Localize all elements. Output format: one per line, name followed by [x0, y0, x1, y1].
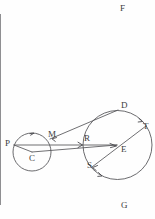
segment-c-e	[32, 145, 117, 152]
point-label-d: D	[121, 101, 128, 110]
point-label-r: R	[84, 134, 90, 143]
point-label-f: F	[120, 4, 125, 13]
point-label-p: P	[5, 139, 10, 148]
point-label-m: M	[48, 130, 56, 139]
point-label-s: S	[87, 161, 92, 170]
point-label-g: G	[121, 201, 128, 210]
geometry-diagram: F D T E R S M P C G	[0, 0, 155, 219]
arc-arrow-circle-c	[30, 133, 34, 135]
point-label-t: T	[143, 122, 149, 131]
point-label-c: C	[29, 154, 35, 163]
point-label-e: E	[121, 145, 127, 154]
diagram-canvas	[0, 0, 155, 219]
segment-p-c	[14, 145, 32, 152]
arc-arrow-circle-e-bottom	[98, 173, 102, 177]
